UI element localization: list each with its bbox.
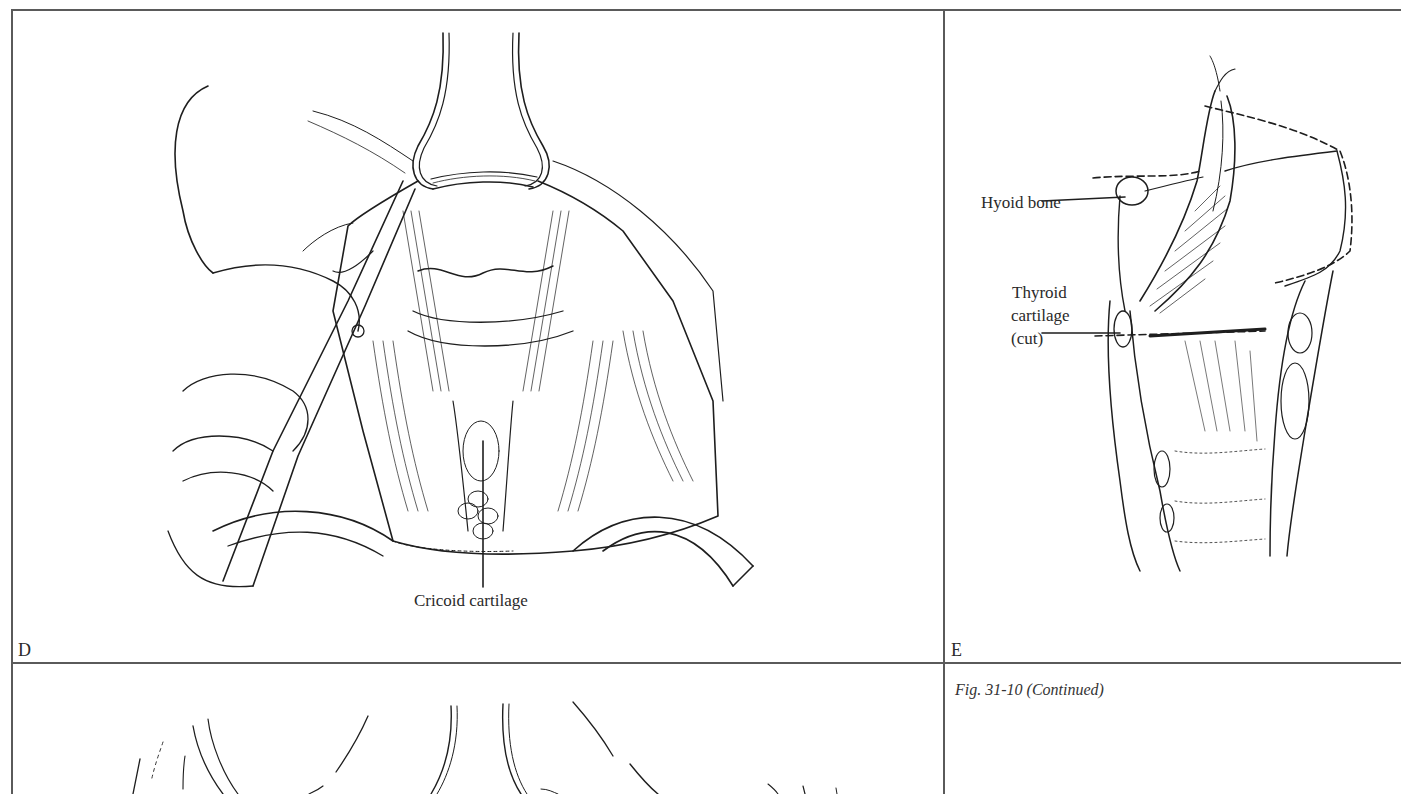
figure-caption: Fig. 31-10 (Continued) — [955, 681, 1104, 699]
panel-letter-d: D — [18, 640, 31, 661]
label-hyoid-bone: Hyoid bone — [981, 193, 1061, 213]
label-thyroid-line3: (cut) — [1011, 329, 1043, 349]
surgical-neck-illustration — [13, 11, 943, 662]
label-cricoid-cartilage: Cricoid cartilage — [414, 591, 528, 611]
label-thyroid-line2: cartilage — [1011, 306, 1070, 326]
panel-e: Hyoid bone Thyroid cartilage (cut) E — [945, 11, 1401, 662]
label-thyroid-line1: Thyroid — [1012, 283, 1067, 303]
panel-letter-e: E — [951, 640, 962, 661]
panel-f-partial — [13, 664, 943, 794]
panel-d: Cricoid cartilage D — [13, 11, 943, 662]
partial-illustration-lines — [13, 664, 943, 794]
